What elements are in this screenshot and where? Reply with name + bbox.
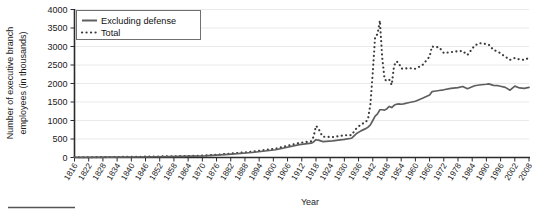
x-tick-label: 1870 (190, 161, 208, 182)
chart-legend: Excluding defense Total (77, 11, 201, 40)
x-tick-label: 1846 (133, 161, 151, 182)
x-tick-label: 1834 (105, 161, 123, 182)
x-tick-label: 1858 (162, 161, 180, 182)
legend-label-excluding-defense: Excluding defense (101, 16, 176, 26)
y-tick-label: 2500 (47, 60, 67, 70)
y-axis-title-line2: employees (in thousands) (18, 31, 28, 134)
y-tick-label: 1500 (47, 97, 67, 107)
x-tick-label: 1840 (119, 161, 137, 182)
x-tick-label: 1930 (332, 161, 350, 182)
x-tick-label: 1996 (489, 161, 507, 182)
y-axis-ticks: 05001000150020002500300035004000 (47, 5, 74, 163)
y-tick-label: 4000 (47, 5, 67, 15)
x-tick-label: 1894 (247, 161, 265, 182)
y-tick-label: 1000 (47, 116, 67, 126)
y-axis-title-line1: Number of executive branch (5, 27, 15, 140)
x-tick-label: 1912 (290, 161, 308, 182)
x-tick-label: 1966 (417, 161, 435, 182)
x-tick-label: 1942 (361, 161, 379, 182)
x-axis-ticks: 1816182218281834184018461852185818641870… (62, 158, 534, 183)
line-chart: 05001000150020002500300035004000 1816182… (0, 0, 553, 216)
x-tick-label: 1900 (261, 161, 279, 182)
y-tick-label: 2000 (47, 79, 67, 89)
y-tick-label: 0 (62, 153, 67, 163)
x-tick-label: 1936 (346, 161, 364, 182)
x-tick-label: 1990 (474, 161, 492, 182)
x-tick-label: 1882 (219, 161, 237, 182)
x-tick-label: 1852 (148, 161, 166, 182)
legend-label-total: Total (101, 28, 120, 38)
x-tick-label: 1828 (91, 161, 109, 182)
x-tick-label: 1984 (460, 161, 478, 182)
x-tick-label: 1822 (77, 161, 95, 182)
x-axis-title: Year (301, 197, 319, 207)
x-tick-label: 1864 (176, 161, 194, 182)
data-series (75, 21, 530, 158)
x-tick-label: 1960 (403, 161, 421, 182)
x-tick-label: 1906 (275, 161, 293, 182)
y-tick-label: 3500 (47, 23, 67, 33)
x-tick-label: 1972 (432, 161, 450, 182)
x-tick-label: 1918 (304, 161, 322, 182)
x-tick-label: 1948 (375, 161, 393, 182)
x-tick-label: 1954 (389, 161, 407, 182)
x-tick-label: 1978 (446, 161, 464, 182)
series-line-total (75, 21, 530, 158)
y-tick-label: 500 (52, 134, 67, 144)
x-tick-label: 2002 (503, 161, 521, 182)
x-tick-label: 1888 (233, 161, 251, 182)
x-tick-label: 1924 (318, 161, 336, 182)
x-tick-label: 1816 (62, 161, 80, 182)
y-tick-label: 3000 (47, 42, 67, 52)
chart-figure: 05001000150020002500300035004000 1816182… (0, 0, 553, 216)
x-tick-label: 1876 (204, 161, 222, 182)
x-tick-label: 2008 (517, 161, 535, 182)
